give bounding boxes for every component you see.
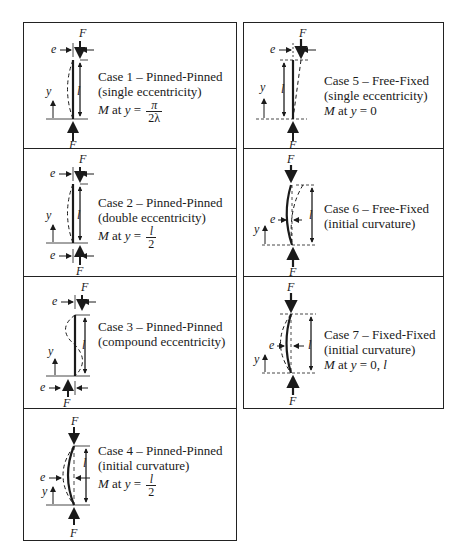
case-6-subtitle: (initial curvature)	[324, 216, 429, 231]
case-1-title: Case 1 – Pinned-Pinned	[98, 69, 223, 84]
svg-text:e: e	[269, 338, 275, 352]
case-3-panel: F e l y e F Case 3 – Pinned-Pinned (comp…	[24, 277, 236, 409]
svg-text:e: e	[52, 294, 58, 308]
svg-text:F: F	[286, 152, 295, 166]
case-5-panel: F e l y F Case 5 – Free-Fixed (single ec…	[244, 23, 443, 149]
svg-text:y: y	[45, 208, 52, 222]
right-column: F e l y F Case 5 – Free-Fixed (single ec…	[243, 22, 444, 409]
svg-text:F: F	[80, 280, 89, 294]
case-6-panel: F l e y F Case 6 – Free-Fixed (initial c…	[244, 149, 443, 277]
case-6-diagram: F l e y F	[244, 149, 334, 277]
case-7-moment: M at y = 0, l	[324, 357, 436, 372]
case-2-caption: Case 2 – Pinned-Pinned (double eccentric…	[98, 195, 223, 250]
svg-text:y: y	[259, 80, 266, 94]
case-3-title: Case 3 – Pinned-Pinned	[98, 319, 225, 334]
case-4-subtitle: (initial curvature)	[98, 458, 223, 473]
case-6-caption: Case 6 – Free-Fixed (initial curvature)	[324, 201, 429, 231]
case-1-moment: M at y = π2λ	[98, 99, 223, 124]
svg-text:y: y	[45, 84, 52, 98]
case-2-moment: M at y = l2	[98, 225, 223, 250]
case-2-fraction: l2	[146, 225, 156, 250]
case-5-title: Case 5 – Free-Fixed	[324, 73, 429, 88]
svg-text:F: F	[78, 152, 87, 166]
case-3-caption: Case 3 – Pinned-Pinned (compound eccentr…	[98, 319, 225, 349]
case-7-panel: F l e y F Case 7 – Fixed-Fixed (initial …	[244, 277, 443, 408]
left-column: F e l y F Case 1 – Pinned-Pinned (single…	[23, 22, 237, 541]
svg-text:y: y	[253, 222, 260, 236]
svg-text:F: F	[70, 414, 79, 428]
case-4-fraction: l2	[146, 473, 156, 498]
case-1-caption: Case 1 – Pinned-Pinned (single eccentric…	[98, 69, 223, 124]
svg-text:y: y	[253, 352, 260, 366]
case-2-title: Case 2 – Pinned-Pinned	[98, 195, 223, 210]
case-7-subtitle: (initial curvature)	[324, 342, 436, 357]
svg-text:y: y	[41, 484, 48, 498]
svg-text:F: F	[62, 396, 71, 409]
svg-text:e: e	[51, 42, 57, 56]
case-7-title: Case 7 – Fixed-Fixed	[324, 327, 436, 342]
svg-text:F: F	[78, 26, 87, 40]
svg-text:F: F	[286, 280, 295, 294]
case-2-subtitle: (double eccentricity)	[98, 210, 223, 225]
svg-text:e: e	[50, 248, 56, 262]
case-1-fraction: π2λ	[146, 99, 162, 124]
svg-text:F: F	[75, 264, 84, 277]
svg-text:F: F	[68, 138, 77, 149]
case-5-moment: M at y = 0	[324, 103, 429, 118]
svg-text:e: e	[40, 380, 46, 394]
svg-text:F: F	[69, 526, 78, 540]
svg-text:e: e	[270, 212, 276, 226]
case-6-title: Case 6 – Free-Fixed	[324, 201, 429, 216]
case-1-subtitle: (single eccentricity)	[98, 84, 223, 99]
svg-text:F: F	[298, 26, 307, 40]
svg-text:y: y	[47, 344, 54, 358]
case-7-diagram: F l e y F	[244, 277, 334, 408]
case-5-subtitle: (single eccentricity)	[324, 88, 429, 103]
case-4-panel: F l e y F Case 4 – Pinned-Pinned (initia…	[24, 409, 236, 540]
case-4-caption: Case 4 – Pinned-Pinned (initial curvatur…	[98, 443, 223, 498]
svg-text:e: e	[40, 470, 46, 484]
case-4-title: Case 4 – Pinned-Pinned	[98, 443, 223, 458]
case-1-panel: F e l y F Case 1 – Pinned-Pinned (single…	[24, 23, 236, 149]
case-5-caption: Case 5 – Free-Fixed (single eccentricity…	[324, 73, 429, 118]
case-7-caption: Case 7 – Fixed-Fixed (initial curvature)…	[324, 327, 436, 372]
svg-text:e: e	[50, 166, 56, 180]
svg-text:F: F	[288, 138, 297, 149]
case-5-diagram: F e l y F	[244, 23, 334, 149]
case-3-subtitle: (compound eccentricity)	[98, 334, 225, 349]
svg-text:F: F	[288, 394, 297, 408]
svg-text:e: e	[270, 42, 276, 56]
case-4-moment: M at y = l2	[98, 473, 223, 498]
svg-text:F: F	[288, 265, 297, 277]
case-2-panel: F e l y e F Case 2 – Pinned-Pinned (doub…	[24, 149, 236, 277]
